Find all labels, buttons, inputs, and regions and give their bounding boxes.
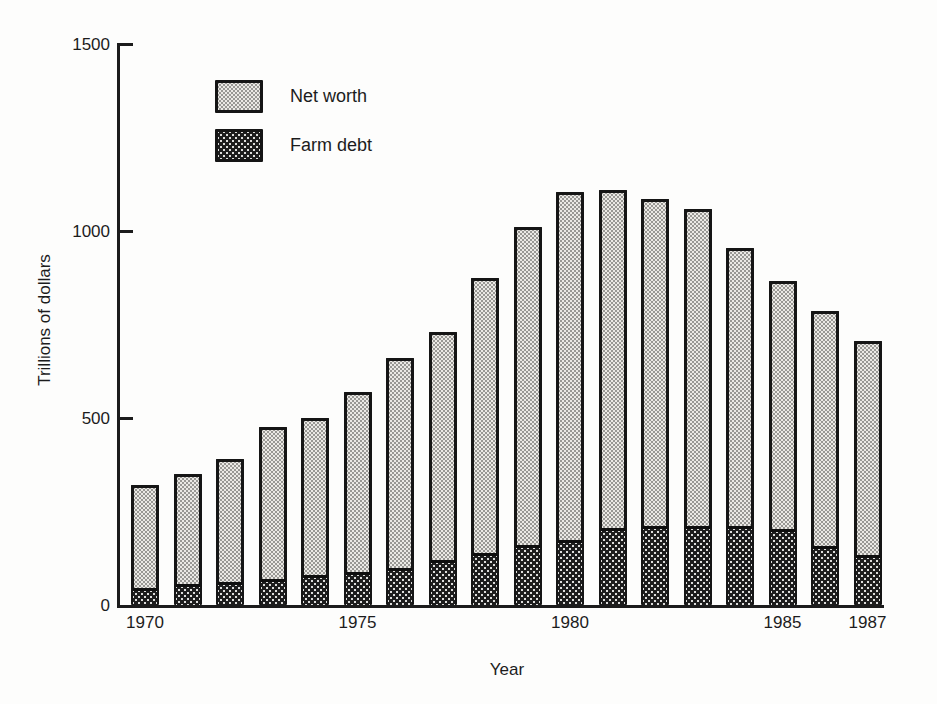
bar-1977-farm-debt-segment [431,560,455,605]
bar-1984-farm-debt-segment [728,526,752,605]
bar-1973 [259,427,287,605]
bar-1976-farm-debt-segment [388,568,412,605]
bar-1986 [811,311,839,605]
bar-1976 [386,358,414,605]
bar-1971-farm-debt-segment [176,584,200,605]
bar-1981-farm-debt-segment [601,528,625,605]
bar-1981 [599,190,627,605]
y-axis-label-500: 500 [50,410,110,427]
bar-1977 [429,332,457,605]
y-axis-tick-500 [120,417,133,420]
bar-1982 [641,199,669,605]
bar-1972 [216,459,244,605]
y-axis-tick-1000 [120,230,133,233]
bar-1985 [769,281,797,605]
bar-1983 [684,209,712,605]
bar-1970-farm-debt-segment [133,588,157,605]
y-axis-label-1500: 1500 [50,36,110,53]
bar-1978-farm-debt-segment [473,553,497,605]
bar-1979 [514,227,542,605]
bar-1983-farm-debt-segment [686,526,710,605]
x-axis-label-1985: 1985 [764,613,802,633]
y-axis-label-1000: 1000 [50,223,110,240]
bar-1972-farm-debt-segment [218,582,242,605]
bar-1980-farm-debt-segment [558,540,582,605]
bar-1973-farm-debt-segment [261,579,285,605]
bar-1984 [726,248,754,605]
y-axis-label-0: 0 [50,597,110,614]
bar-1974-farm-debt-segment [303,575,327,605]
bar-1982-farm-debt-segment [643,526,667,605]
x-axis-label-1975: 1975 [339,613,377,633]
bar-1985-farm-debt-segment [771,529,795,605]
bar-1980 [556,192,584,605]
bar-chart-figure: Trillions of dollars Year Net worth Farm… [0,0,937,704]
bar-1975-farm-debt-segment [346,572,370,605]
x-axis-label-1970: 1970 [126,613,164,633]
bar-1971 [174,474,202,605]
bar-1970 [131,485,159,605]
bar-1978 [471,278,499,605]
x-axis-label-1987: 1987 [849,613,887,633]
bar-1986-farm-debt-segment [813,546,837,605]
bar-1979-farm-debt-segment [516,545,540,605]
bar-1974 [301,418,329,605]
y-axis-tick-1500 [120,43,133,46]
bar-1987 [854,341,882,605]
plot-area: 05001000150019701975198019851987 [0,0,937,704]
bar-1975 [344,392,372,605]
x-axis-label-1980: 1980 [551,613,589,633]
bar-1987-farm-debt-segment [856,555,880,605]
